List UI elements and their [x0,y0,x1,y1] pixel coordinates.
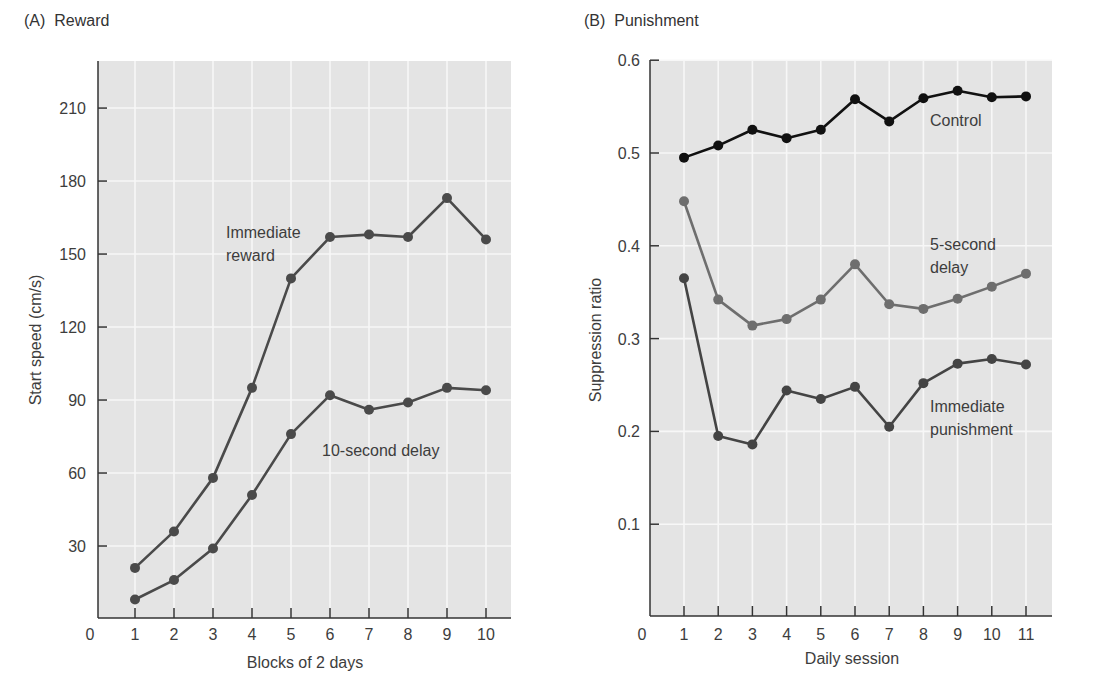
data-point [782,133,792,143]
data-point [169,575,179,585]
x-tick-label: 10 [983,626,1001,643]
y-tick-label: 60 [68,465,86,482]
y-tick-label: 120 [59,319,86,336]
x-tick-label: 8 [919,626,928,643]
data-point [884,299,894,309]
data-point [747,321,757,331]
x-axis-title: Blocks of 2 days [247,654,364,671]
x-tick-label: 2 [170,626,179,643]
y-tick-label: 30 [68,538,86,555]
data-point [481,234,491,244]
series-label: 10-second delay [322,442,439,459]
chart-punishment: 0.10.20.30.40.50.601234567891011Daily se… [587,52,1052,667]
data-point [286,429,296,439]
y-axis-title: Suppression ratio [587,278,604,403]
data-point [987,354,997,364]
data-point [953,294,963,304]
x-tick-label: 3 [748,626,757,643]
series-label: 5-second [930,236,996,253]
data-point [918,93,928,103]
data-point [1021,91,1031,101]
data-point [782,314,792,324]
data-point [816,295,826,305]
y-tick-label: 0.5 [618,145,640,162]
y-tick-label: 0.3 [618,331,640,348]
x-tick-label: 7 [365,626,374,643]
data-point [816,394,826,404]
data-point [918,304,928,314]
origin-label: 0 [638,626,647,643]
origin-label: 0 [86,626,95,643]
data-point [747,439,757,449]
data-point [130,595,140,605]
data-point [850,382,860,392]
data-point [816,125,826,135]
y-tick-label: 0.6 [618,52,640,69]
y-axis-title: Start speed (cm/s) [27,275,44,406]
data-point [247,383,257,393]
data-point [850,94,860,104]
data-point [713,295,723,305]
data-point [953,359,963,369]
y-tick-label: 90 [68,392,86,409]
data-point [987,282,997,292]
charts-canvas: 306090120150180210012345678910Blocks of … [0,0,1094,690]
x-tick-label: 1 [131,626,140,643]
data-point [747,125,757,135]
x-tick-label: 10 [477,626,495,643]
data-point [918,378,928,388]
data-point [286,273,296,283]
data-point [884,116,894,126]
data-point [850,259,860,269]
series-label: Control [930,112,982,129]
series-label: Immediate [930,398,1005,415]
x-tick-label: 4 [248,626,257,643]
series-label: Immediate [226,224,301,241]
y-tick-label: 150 [59,246,86,263]
data-point [987,92,997,102]
data-point [247,490,257,500]
data-point [442,193,452,203]
x-tick-label: 1 [680,626,689,643]
data-point [169,526,179,536]
data-point [1021,360,1031,370]
data-point [208,543,218,553]
y-tick-label: 180 [59,173,86,190]
x-tick-label: 5 [287,626,296,643]
data-point [403,232,413,242]
series-label: delay [930,259,968,276]
data-point [442,383,452,393]
x-tick-label: 7 [885,626,894,643]
x-tick-label: 2 [714,626,723,643]
x-tick-label: 6 [326,626,335,643]
x-tick-label: 9 [443,626,452,643]
x-axis-title: Daily session [805,650,899,667]
data-point [713,141,723,151]
x-tick-label: 3 [209,626,218,643]
data-point [679,273,689,283]
y-tick-label: 0.1 [618,516,640,533]
data-point [403,397,413,407]
data-point [1021,269,1031,279]
series-label: punishment [930,421,1013,438]
data-point [364,405,374,415]
x-tick-label: 9 [953,626,962,643]
data-point [130,563,140,573]
series-label: reward [226,247,275,264]
y-tick-label: 0.2 [618,423,640,440]
data-point [884,422,894,432]
data-point [208,473,218,483]
x-tick-label: 8 [404,626,413,643]
data-point [679,196,689,206]
data-point [364,230,374,240]
x-tick-label: 4 [782,626,791,643]
data-point [325,390,335,400]
x-tick-label: 5 [816,626,825,643]
plot-area [98,61,511,618]
chart-reward: 306090120150180210012345678910Blocks of … [27,61,511,671]
y-tick-label: 210 [59,100,86,117]
data-point [713,431,723,441]
data-point [679,153,689,163]
x-tick-label: 11 [1018,626,1035,643]
y-tick-label: 0.4 [618,238,640,255]
